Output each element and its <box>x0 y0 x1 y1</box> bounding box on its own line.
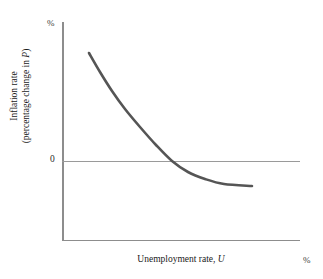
phillips-curve-plot <box>0 0 323 279</box>
x-axis-title: Unemployment rate, U <box>62 254 300 264</box>
y-axis-zero-label: 0 <box>50 155 55 165</box>
phillips-curve-path <box>89 53 252 186</box>
y-axis-title-line2: (percentage change in P) <box>20 6 32 186</box>
x-axis-title-variable: U <box>218 254 225 264</box>
y-axis-title: Inflation rate (percentage change in P) <box>8 6 32 186</box>
y-axis-unit-label: % <box>47 19 55 28</box>
y-axis-title-line2-suffix: ) <box>21 49 31 52</box>
x-axis-title-text: Unemployment rate, <box>137 254 217 264</box>
y-axis-title-variable: P <box>21 52 31 58</box>
phillips-curve-figure: % % 0 Unemployment rate, U Inflation rat… <box>0 0 323 279</box>
x-axis-unit-label: % <box>303 256 311 265</box>
y-axis-title-line2-prefix: (percentage change in <box>21 58 31 144</box>
y-axis-title-line1: Inflation rate <box>8 6 20 186</box>
